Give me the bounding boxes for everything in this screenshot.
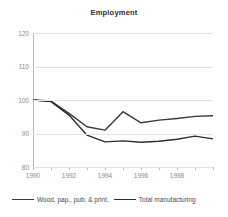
series-line-wood-pap-pub-print (33, 100, 213, 130)
gridline-80 (33, 167, 213, 168)
chart-title: Employment (0, 8, 228, 17)
legend-line-swatch-icon (114, 199, 136, 201)
x-tick-label-1994: 1994 (90, 172, 120, 179)
x-tick-2000 (213, 167, 214, 170)
employment-line-chart: Employment 8090100110120 199019921994199… (0, 0, 228, 217)
legend-item-wood-pap-pub-print[interactable]: Wood, pap., pub. & print. (12, 196, 109, 203)
legend-line-swatch-icon (12, 199, 34, 201)
y-tick-label-90: 90 (5, 130, 29, 137)
x-tick-label-1990: 1990 (18, 172, 48, 179)
gridline-110 (33, 67, 213, 68)
legend-item-total-manufacturing[interactable]: Total manufacturing (114, 196, 196, 203)
x-tick-label-1992: 1992 (54, 172, 84, 179)
x-tick-label-1998: 1998 (162, 172, 192, 179)
series-line-total-manufacturing (33, 100, 213, 142)
y-tick-label-100: 100 (5, 97, 29, 104)
gridline-90 (33, 134, 213, 135)
gridline-100 (33, 100, 213, 101)
x-tick-label-1996: 1996 (126, 172, 156, 179)
gridline-120 (33, 33, 213, 34)
y-tick-label-110: 110 (5, 63, 29, 70)
y-tick-label-80: 80 (5, 164, 29, 171)
legend-item-label: Wood, pap., pub. & print. (37, 196, 109, 203)
chart-legend: Wood, pap., pub. & print. Total manufact… (12, 196, 222, 203)
legend-item-label: Total manufacturing (139, 196, 196, 203)
y-tick-label-120: 120 (5, 30, 29, 37)
